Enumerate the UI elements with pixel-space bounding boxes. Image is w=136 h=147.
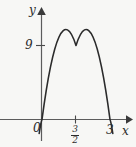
fraction-denominator: 2 xyxy=(68,136,82,145)
parabola-figure: y x 9 0 3 2 3 xyxy=(0,0,136,147)
y-axis-arrowhead xyxy=(37,7,46,15)
y-axis-label: y xyxy=(29,4,36,16)
x-tick-label-3: 3 xyxy=(106,124,114,136)
y-tick-label-9: 9 xyxy=(25,39,33,51)
x-tick-label-three-halves: 3 2 xyxy=(68,125,82,146)
fraction-numerator: 3 xyxy=(68,125,82,134)
x-axis-label: x xyxy=(122,125,129,137)
x-axis-arrowhead xyxy=(126,115,133,124)
origin-label: 0 xyxy=(33,122,41,134)
